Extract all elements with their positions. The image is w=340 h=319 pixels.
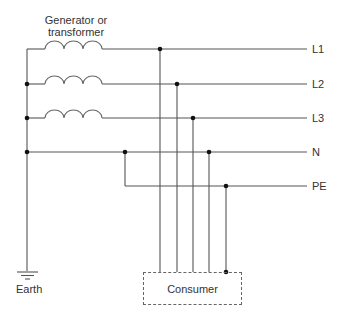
label-n: N [312, 146, 320, 158]
junction-dot-icon [25, 116, 30, 121]
junction-dot-icon [191, 116, 196, 121]
junction-dot-icon [158, 47, 163, 52]
winding-l3-icon [27, 110, 102, 118]
winding-l1-icon [27, 41, 102, 49]
label-pe: PE [312, 180, 327, 192]
junction-dot-icon [25, 150, 30, 155]
earth-label: Earth [16, 283, 42, 295]
label-l1: L1 [312, 43, 324, 55]
source-title-line2: transformer [36, 26, 116, 38]
junction-dot-icon [207, 150, 212, 155]
junction-dot-icon [25, 82, 30, 87]
consumer-label: Consumer [167, 283, 218, 295]
junction-dot-icon [123, 150, 128, 155]
label-l2: L2 [312, 78, 324, 90]
junction-dot-icon [175, 82, 180, 87]
consumer-box: Consumer [143, 272, 242, 305]
source-title-line1: Generator or [36, 14, 116, 26]
winding-l2-icon [27, 76, 102, 84]
junction-dot-icon [224, 184, 229, 189]
label-l3: L3 [312, 112, 324, 124]
source-title: Generator or transformer [36, 14, 116, 38]
earth-ground-icon [17, 272, 38, 279]
